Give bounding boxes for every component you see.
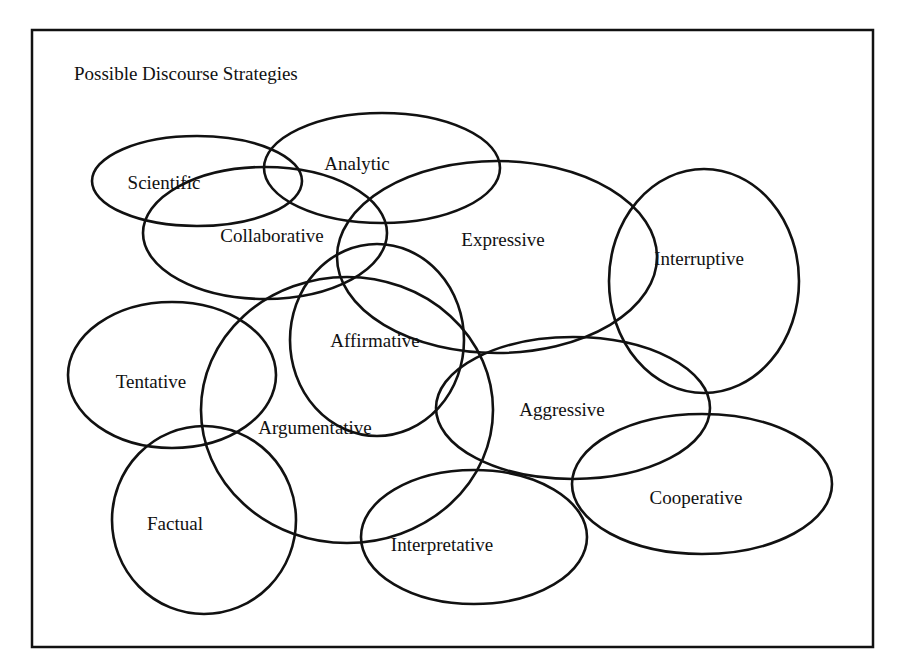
factual-ellipse bbox=[112, 426, 296, 614]
argumentative-label: Argumentative bbox=[258, 417, 372, 438]
analytic-label: Analytic bbox=[324, 153, 389, 174]
cooperative-label: Cooperative bbox=[650, 487, 743, 508]
tentative-label: Tentative bbox=[116, 371, 186, 392]
discourse-strategies-diagram: Possible Discourse Strategies Scientific… bbox=[0, 0, 900, 667]
strategy-labels: ScientificAnalyticCollaborativeExpressiv… bbox=[116, 153, 744, 555]
expressive-label: Expressive bbox=[461, 229, 544, 250]
diagram-title: Possible Discourse Strategies bbox=[74, 63, 298, 84]
interpretative-label: Interpretative bbox=[391, 534, 493, 555]
collaborative-label: Collaborative bbox=[220, 225, 323, 246]
argumentative-ellipse bbox=[201, 277, 493, 543]
interruptive-label: Interruptive bbox=[654, 248, 744, 269]
scientific-label: Scientific bbox=[128, 172, 201, 193]
cooperative-ellipse bbox=[572, 414, 832, 554]
interruptive-ellipse bbox=[609, 169, 799, 393]
expressive-ellipse bbox=[337, 161, 657, 353]
aggressive-label: Aggressive bbox=[519, 399, 604, 420]
factual-label: Factual bbox=[147, 513, 203, 534]
affirmative-label: Affirmative bbox=[330, 330, 419, 351]
